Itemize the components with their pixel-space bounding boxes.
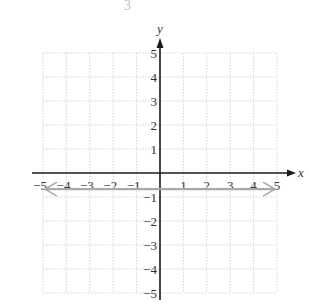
x-axis-arrow-icon [287,170,296,177]
x-axis-label: x [297,165,304,180]
x-tick-label: 3 [227,178,234,193]
x-tick-label: −2 [103,178,117,193]
y-tick-label: 5 [151,46,158,61]
y-axis-label: y [155,21,163,36]
y-tick-label: −1 [143,190,157,205]
y-tick-label: 3 [151,94,158,109]
x-tick-label: −4 [57,178,71,193]
y-tick-label: −4 [143,262,157,277]
x-tick-label: 4 [250,178,257,193]
x-tick-label: 2 [204,178,211,193]
y-tick-label: 4 [151,70,158,85]
x-tick-label: −5 [33,178,47,193]
y-tick-label: 1 [151,142,158,157]
y-axis-arrow-icon [157,38,164,48]
x-tick-label: −1 [127,178,141,193]
coordinate-plane: 3 x y −5−4−3−2−11234554321−1−2−3−4−5 [0,0,309,308]
y-tick-label: −2 [143,214,157,229]
header-fragment: 3 [124,0,131,13]
x-tick-label: 5 [274,178,281,193]
x-tick-label: −3 [80,178,94,193]
y-tick-label: 2 [151,118,158,133]
y-tick-label: −5 [143,286,157,301]
x-tick-label: 1 [180,178,187,193]
y-tick-label: −3 [143,238,157,253]
axes: x y [32,21,304,300]
